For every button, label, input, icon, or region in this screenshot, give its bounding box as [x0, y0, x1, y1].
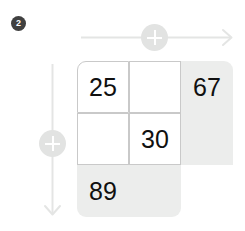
grid-cell-r3c2[interactable] [129, 165, 181, 217]
grid-cell-r2c3[interactable] [181, 113, 233, 165]
grid-cell-r1c1[interactable]: 25 [77, 61, 129, 113]
horizontal-plus-icon[interactable] [141, 24, 168, 51]
grid-cell-r2c2[interactable]: 30 [129, 113, 181, 165]
grid-cell-r1c3[interactable]: 67 [181, 61, 233, 113]
grid-cell-value: 67 [193, 75, 221, 100]
grid-cell-r3c1[interactable]: 89 [77, 165, 129, 217]
number-grid: 25 67 30 89 [77, 61, 233, 217]
grid-cell-r3c3 [181, 165, 233, 217]
vertical-plus-icon[interactable] [39, 130, 66, 157]
grid-cell-r2c1[interactable] [77, 113, 129, 165]
puzzle-canvas: 2 25 67 30 [0, 0, 245, 231]
grid-cell-r1c2[interactable] [129, 61, 181, 113]
grid-cell-value: 25 [89, 75, 117, 100]
grid-cell-value: 30 [141, 127, 169, 152]
grid-cell-value: 89 [89, 179, 117, 204]
step-number-badge: 2 [11, 16, 26, 31]
